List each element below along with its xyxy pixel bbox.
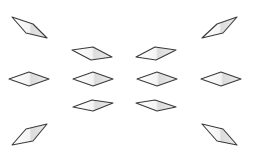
rhombus-middle-2 xyxy=(73,72,113,86)
rhombus-upper-inner-right xyxy=(136,47,176,60)
shapes-layer xyxy=(9,17,241,145)
rhombus-middle-4 xyxy=(201,72,241,86)
rhombus-middle-1 xyxy=(9,72,49,86)
rhombus-bottom-left xyxy=(12,124,47,145)
rhombus-middle-3 xyxy=(137,72,177,86)
diagram-canvas xyxy=(0,0,258,158)
rhombus-lower-inner-right xyxy=(136,100,176,111)
rhombus-lower-inner-left xyxy=(73,100,113,111)
rhombus-upper-inner-left xyxy=(72,47,112,60)
rhombus-top-right xyxy=(202,17,237,38)
rhombus-top-left xyxy=(12,17,47,38)
rhombus-bottom-right xyxy=(202,124,237,145)
